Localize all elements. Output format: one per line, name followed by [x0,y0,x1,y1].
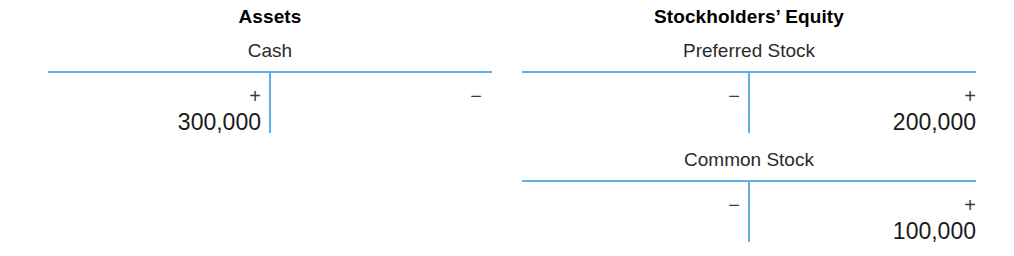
account-title-preferred-stock: Preferred Stock [522,40,976,62]
t-account-divider-preferred-stock [748,72,750,133]
debit-sign-cash: + [175,86,261,106]
debit-amount-cash: 300,000 [105,111,261,134]
credit-sign-cash: − [396,86,482,106]
account-title-common-stock: Common Stock [522,149,976,171]
credit-sign-preferred-stock: + [890,86,976,106]
section-heading-stockholders-equity: Stockholders’ Equity [522,6,976,28]
account-title-cash: Cash [48,40,492,62]
t-account-divider-cash [269,72,271,133]
credit-sign-common-stock: + [890,195,976,215]
debit-sign-preferred-stock: − [654,86,740,106]
debit-sign-common-stock: − [654,195,740,215]
section-heading-assets: Assets [48,6,492,28]
t-account-divider-common-stock [748,181,750,242]
credit-amount-common-stock: 100,000 [820,220,976,243]
credit-amount-preferred-stock: 200,000 [820,111,976,134]
